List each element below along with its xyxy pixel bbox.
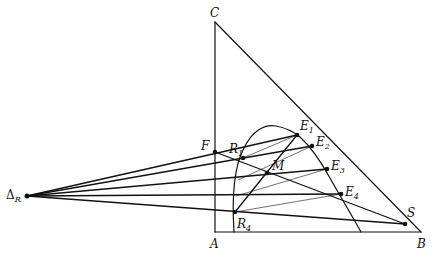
line-delta-E2 [27,146,312,196]
point-E4 [339,192,344,197]
label-B: B [416,237,426,251]
point-E3 [325,167,330,172]
tie-line-4 [235,194,341,212]
label-F: F [200,139,210,153]
label-S: S [407,206,415,220]
label-delta-R: ΔR [6,188,21,204]
point-S [403,222,408,227]
line-delta-E4 [27,194,341,196]
extraction-diagram: C A B F M S R1 R4 E1 E2 E3 E4 ΔR [0,0,434,256]
edge-CB [215,22,421,232]
point-delta-R [25,194,30,199]
point-E2 [310,144,315,149]
tie-line-1 [243,135,297,158]
label-E1: E1 [299,119,314,135]
line-delta-E1 [27,135,297,196]
label-E3: E3 [330,159,345,175]
point-F [213,150,218,155]
point-M [265,171,270,176]
label-E4: E4 [344,185,359,201]
label-R4: R4 [236,217,251,233]
point-R4 [233,210,238,215]
line-F-S [215,152,405,224]
label-C: C [210,6,219,20]
label-M: M [271,159,285,173]
label-R1: R1 [228,142,243,158]
diagram-canvas: C A B F M S R1 R4 E1 E2 E3 E4 ΔR [0,0,434,256]
point-E1 [295,133,300,138]
label-A: A [209,237,219,251]
